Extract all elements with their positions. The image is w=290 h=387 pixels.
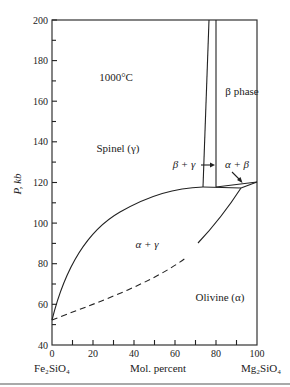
x-endmember-right: Mg₂SiO₄ <box>241 362 281 374</box>
x-endmember-left: Fe₂SiO₄ <box>34 362 70 374</box>
x-tick-80: 80 <box>211 348 221 359</box>
alpha-boundary-curve <box>198 188 241 243</box>
olivine-label: Olivine (α) <box>196 291 245 304</box>
alpha-gamma-dashed-curve <box>52 257 187 320</box>
y-tick-80: 80 <box>38 258 48 269</box>
beta-phase-label: β phase <box>225 85 259 97</box>
beta-gamma-label: β + γ <box>172 158 196 170</box>
spinel-label: Spinel (γ) <box>96 142 139 155</box>
gamma-boundary-curve <box>52 187 203 320</box>
y-tick-40: 40 <box>38 340 48 351</box>
beta-gamma-arrowhead <box>210 163 215 168</box>
y-tick-180: 180 <box>33 55 48 66</box>
alpha-gamma-label: α + γ <box>135 238 159 250</box>
y-tick-160: 160 <box>33 96 48 107</box>
x-tick-40: 40 <box>129 348 139 359</box>
y-axis-ticks <box>52 20 57 325</box>
y-tick-60: 60 <box>38 299 48 310</box>
y-tick-140: 140 <box>33 136 48 147</box>
y-tick-100: 100 <box>33 218 48 229</box>
phase-boundaries <box>52 20 257 320</box>
y-axis-label: P, kb <box>11 173 23 196</box>
y-tick-120: 120 <box>33 177 48 188</box>
beta-gamma-left-line <box>203 20 209 187</box>
x-tick-0: 0 <box>50 348 55 359</box>
y-tick-200: 200 <box>33 15 48 26</box>
y-tick-labels: 200 180 160 140 120 100 80 60 40 <box>33 15 48 351</box>
x-tick-20: 20 <box>88 348 98 359</box>
alpha-beta-label: α + β <box>225 158 250 170</box>
x-tick-labels: 0 20 40 60 80 100 <box>50 348 265 359</box>
x-axis-label: Mol. percent <box>130 362 186 374</box>
x-axis-ticks <box>73 340 237 345</box>
temperature-label: 1000°C <box>99 71 133 83</box>
base-line <box>203 187 241 188</box>
x-tick-100: 100 <box>250 348 265 359</box>
x-tick-60: 60 <box>170 348 180 359</box>
phase-diagram: 200 180 160 140 120 100 80 60 40 0 20 40… <box>0 0 290 387</box>
